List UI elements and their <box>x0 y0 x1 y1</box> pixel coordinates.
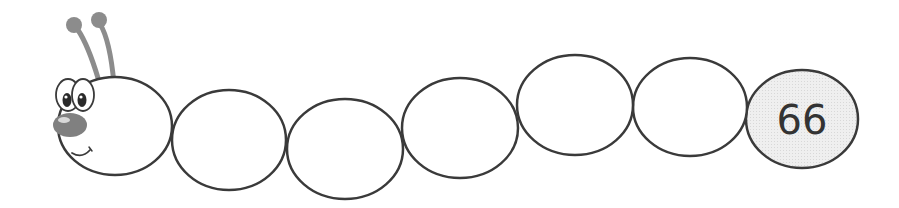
antenna-right <box>100 24 114 84</box>
segment-6-value: 66 <box>777 97 828 143</box>
antenna-left-knob <box>66 17 82 33</box>
nose-highlight <box>58 117 70 123</box>
eye-right-pupil <box>78 93 87 107</box>
segment-3 <box>402 78 518 178</box>
antenna-right-knob <box>91 12 107 28</box>
eye-left-pupil <box>63 93 72 107</box>
caterpillar-diagram: 66 <box>0 0 899 208</box>
caterpillar-head <box>53 77 172 175</box>
segment-5 <box>633 58 747 156</box>
segment-2 <box>287 99 403 199</box>
antenna-left <box>78 30 98 78</box>
segment-labels: 66 <box>777 97 828 143</box>
segment-4 <box>517 55 633 155</box>
eye-right-glint <box>79 95 82 98</box>
eye-left-glint <box>64 95 67 98</box>
nose <box>53 113 87 137</box>
antennae <box>66 12 114 84</box>
segment-1 <box>172 90 286 190</box>
body-segments <box>172 55 858 199</box>
